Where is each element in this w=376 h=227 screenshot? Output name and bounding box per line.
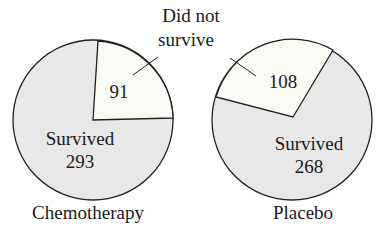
chemo-survived-label: Survived [46,128,115,149]
placebo-survived-label: Survived [275,133,344,154]
placebo-survived-value: 268 [295,156,324,177]
chemo-dns-value: 91 [110,81,129,102]
placebo-pie: 108 Survived 268 Placebo [212,39,372,223]
pie-charts: 91 Survived 293 Chemotherapy 108 Survive… [0,0,376,227]
annotation-line1: Did not [162,5,220,26]
placebo-title: Placebo [273,202,333,223]
chemotherapy-pie: 91 Survived 293 Chemotherapy [13,40,173,223]
annotation-line2: survive [158,29,214,50]
chemo-survived-value: 293 [66,151,95,172]
chemo-title: Chemotherapy [32,202,144,223]
placebo-dns-value: 108 [269,71,298,92]
